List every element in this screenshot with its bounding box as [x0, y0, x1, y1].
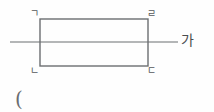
vertex-label-bottom-right: ㄷ — [147, 66, 156, 76]
vertex-label-bottom-left: ㄴ — [30, 66, 39, 76]
geometry-figure: ㄱ ㄹ ㄴ ㄷ 가 ( — [0, 0, 214, 112]
vertex-label-top-right: ㄹ — [147, 9, 156, 19]
vertex-label-top-left: ㄱ — [30, 9, 39, 19]
open-paren-mark: ( — [15, 89, 23, 109]
line-label-ga: 가 — [181, 33, 194, 47]
